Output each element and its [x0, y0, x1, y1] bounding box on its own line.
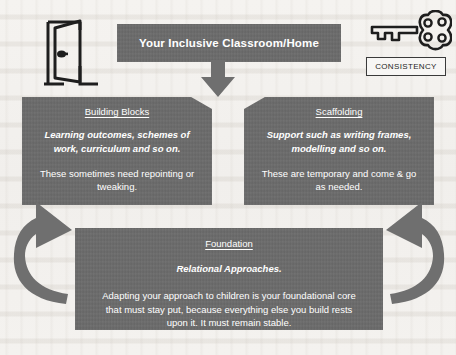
key-icon — [360, 10, 452, 56]
consistency-label: CONSISTENCY — [366, 57, 446, 76]
building-blocks-box: Building Blocks Learning outcomes, schem… — [22, 97, 212, 205]
curved-up-left-arrow-icon — [6, 196, 78, 308]
scaffolding-heading: Scaffolding — [256, 106, 422, 117]
foundation-emphasis: Relational Approaches. — [87, 262, 371, 276]
down-arrow-icon — [198, 60, 238, 98]
building-blocks-body: These sometimes need repointing or tweak… — [34, 167, 200, 195]
foundation-box: Foundation Relational Approaches. Adapti… — [75, 228, 383, 330]
curved-up-right-arrow-icon — [380, 196, 452, 308]
scaffolding-body: These are temporary and come & go as nee… — [256, 167, 422, 195]
building-blocks-heading: Building Blocks — [34, 106, 200, 117]
building-blocks-emphasis: Learning outcomes, schemes of work, curr… — [34, 128, 200, 156]
diagram-canvas: Your Inclusive Classroom/Home CONSISTENC… — [0, 0, 456, 355]
foundation-heading: Foundation — [87, 238, 371, 249]
open-door-icon — [42, 16, 104, 90]
foundation-body: Adapting your approach to children is yo… — [87, 289, 371, 330]
page-title: Your Inclusive Classroom/Home — [139, 37, 319, 49]
scaffolding-box: Scaffolding Support such as writing fram… — [244, 97, 434, 205]
scaffolding-emphasis: Support such as writing frames, modellin… — [256, 128, 422, 156]
header-banner: Your Inclusive Classroom/Home — [117, 24, 341, 62]
